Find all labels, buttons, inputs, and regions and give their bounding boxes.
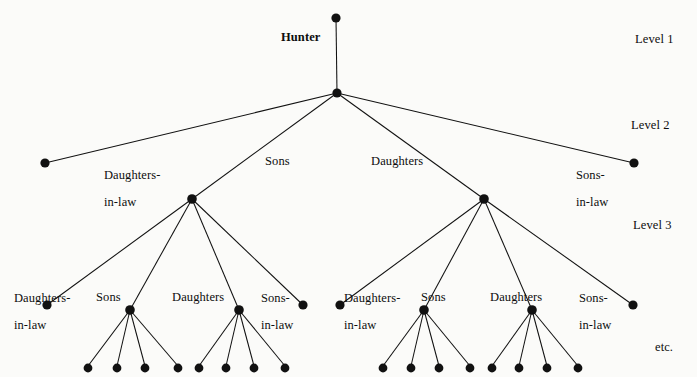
node-level3-left-daughters [234,305,244,315]
node-leaf [466,364,475,373]
node-leaf [222,364,231,373]
level-3-label: Level 3 [633,219,672,233]
edge-hub-to-sons-in-law [337,93,634,163]
edge-hub-to-daughters [337,93,484,199]
label-line-1: Sons- [576,168,605,182]
node-level3-left-sons-in-law [298,300,307,309]
node-leaf [488,364,497,373]
level3-left-label-daughters-in-law: Daughters- in-law [1,278,70,346]
node-leaf [113,364,122,373]
label-line-2: in-law [579,318,612,332]
edge-hub-to-sons [192,93,337,199]
node-leaf [250,364,259,373]
label-line-2: in-law [14,318,47,332]
level2-label-daughters-in-law: Daughters- in-law [91,155,160,223]
node-leaf [407,364,416,373]
node-leaf [379,364,388,373]
edge-hub-to-daughters-in-law [45,93,337,163]
node-root-hunter [331,13,340,22]
label-line-2: in-law [576,195,609,209]
node-level2-sons [187,194,197,204]
node-level3-right-sons [419,305,429,315]
level2-label-sons-in-law: Sons- in-law [563,155,608,223]
level-1-label: Level 1 [635,33,674,47]
label-line-2: in-law [261,318,294,332]
label-line-1: Sons- [261,291,290,305]
level3-left-label-sons-in-law: Sons- in-law [248,278,293,346]
node-leaf [84,364,93,373]
label-line-1: Sons- [579,291,608,305]
node-hub-level-1 [332,88,341,97]
node-level2-sons-in-law [629,158,638,167]
level3-right-label-daughters-in-law: Daughters- in-law [331,278,400,346]
node-leaf [281,364,290,373]
label-line-2: in-law [104,195,137,209]
level2-label-sons: Sons [265,155,290,169]
node-leaf [574,364,583,373]
level-2-label: Level 2 [631,119,670,133]
label-line-1: Daughters- [344,291,401,305]
etc-label: etc. [655,341,673,355]
level3-right-label-sons-in-law: Sons- in-law [566,278,611,346]
root-label-hunter: Hunter [281,31,321,45]
node-level3-right-daughters [527,305,537,315]
node-level2-daughters [479,194,489,204]
node-leaf [195,364,204,373]
kinship-tree-diagram: Hunter Level 1 Level 2 Level 3 Daughters… [0,0,697,377]
node-level3-left-sons [125,305,135,315]
level3-left-label-daughters: Daughters [172,291,224,305]
level3-right-label-sons: Sons [421,291,446,305]
node-leaf [515,364,524,373]
node-leaf [174,364,183,373]
label-line-2: in-law [344,318,377,332]
edge-root-to-hub [336,18,337,93]
level2-label-daughters: Daughters [371,155,423,169]
node-leaf [141,364,150,373]
node-leaf [435,364,444,373]
node-level2-daughters-in-law [40,158,49,167]
label-line-1: Daughters- [14,291,71,305]
edge-group-level-1 [336,18,337,93]
level3-left-label-sons: Sons [96,291,121,305]
edge-leaf [424,310,470,366]
node-level3-right-sons-in-law [628,300,637,309]
level3-right-label-daughters: Daughters [490,291,542,305]
label-line-1: Daughters- [104,168,161,182]
node-leaf [543,364,552,373]
